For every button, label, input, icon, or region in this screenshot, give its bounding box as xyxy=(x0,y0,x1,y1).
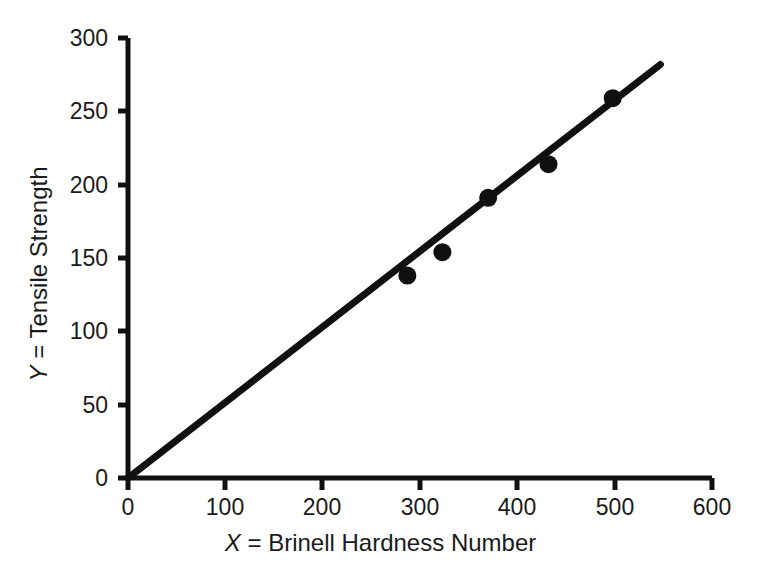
y-axis-title: Y = Tensile Strength xyxy=(25,124,53,424)
x-axis-title: X = Brinell Hardness Number xyxy=(0,529,761,557)
x-tick-label-300: 300 xyxy=(401,494,439,521)
data-point xyxy=(479,189,497,207)
x-axis-title-variable: X xyxy=(225,529,241,556)
data-point xyxy=(398,267,416,285)
plot-canvas xyxy=(0,0,761,577)
x-tick-label-200: 200 xyxy=(303,494,341,521)
data-point xyxy=(539,155,557,173)
y-tick-label-0: 0 xyxy=(40,465,108,492)
data-point xyxy=(604,89,622,107)
x-tick-label-600: 600 xyxy=(693,494,731,521)
y-tick-label-300: 300 xyxy=(40,25,108,52)
y-tick-label-250: 250 xyxy=(40,98,108,125)
data-point xyxy=(433,243,451,261)
regression-trend-line xyxy=(128,64,660,478)
x-tick-label-400: 400 xyxy=(498,494,536,521)
x-tick-label-500: 500 xyxy=(596,494,634,521)
scatter-plot-figure: 300 250 200 150 100 50 0 0 100 200 300 4… xyxy=(0,0,761,577)
x-tick-label-0: 0 xyxy=(122,494,135,521)
y-axis-title-text: = Tensile Strength xyxy=(25,166,52,365)
x-axis-title-text: = Brinell Hardness Number xyxy=(241,529,536,556)
x-tick-label-100: 100 xyxy=(206,494,244,521)
y-axis-title-variable: Y xyxy=(25,366,52,382)
